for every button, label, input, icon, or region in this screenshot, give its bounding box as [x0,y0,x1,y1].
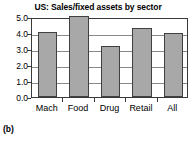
y-axis-tick-mark [27,66,31,67]
y-axis-tick-label: 2.0 [0,62,28,70]
y-axis-tick-label: 5.0 [0,14,28,22]
bar-food [69,16,88,97]
bar-drug [101,46,120,97]
y-axis-tick-label: 1.0 [0,78,28,86]
figure-caption: (b) [3,124,14,134]
plot-area [31,18,188,98]
bar-retail [132,28,151,97]
bar-series [32,19,187,97]
x-axis-tick-label: Mach [31,103,62,114]
y-axis-tick-label: 3.0 [0,46,28,54]
y-axis-tick-mark [27,98,31,99]
y-axis-tick-mark [27,34,31,35]
y-axis-tick-label: 4.0 [0,30,28,38]
y-axis-tick-label: 0.0 [0,94,28,102]
x-axis-tick-mark [157,98,158,102]
x-axis-tick-mark [125,98,126,102]
x-axis-tick-label: Retail [125,103,156,114]
x-axis-tick-label: Drug [94,103,125,114]
y-axis-tick-mark [27,82,31,83]
y-axis-tick-mark [27,18,31,19]
x-axis-tick-mark [94,98,95,102]
bar-all [164,33,183,97]
figure-panel: US: Sales/fixed assets by sector (b) 0.0… [0,0,196,142]
x-axis-tick-label: Food [62,103,93,114]
y-axis-tick-mark [27,50,31,51]
bar-mach [38,32,57,97]
x-axis-tick-mark [62,98,63,102]
chart-title: US: Sales/fixed assets by sector [0,2,196,12]
x-axis-tick-label: All [157,103,188,114]
